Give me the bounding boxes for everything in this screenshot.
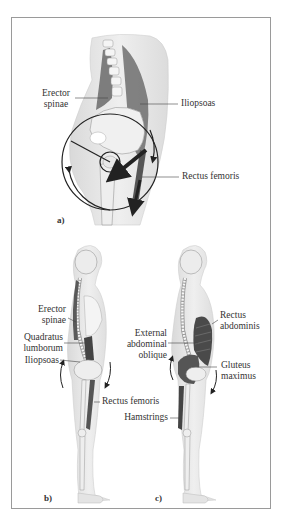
label-line: Gluteus: [221, 360, 256, 371]
label-b-quadratus-lumborum: Quadratus lumborum: [12, 332, 63, 354]
label-line: spinae: [42, 99, 70, 110]
label-b-rectus-femoris: Rectus femoris: [102, 396, 159, 407]
panel-label-a: a): [57, 215, 65, 225]
label-c-external-abdominal-oblique: External abdominal oblique: [115, 328, 167, 361]
label-line: abdominis: [220, 321, 260, 332]
label-line: abdominal: [115, 339, 167, 350]
label-line: maximus: [221, 371, 256, 382]
label-c-hamstrings: Hamstrings: [110, 412, 168, 423]
label-line: Quadratus: [12, 332, 63, 343]
label-line: Erector: [42, 88, 70, 99]
panel-label-b: b): [44, 493, 52, 503]
anatomy-illustration: [0, 0, 281, 524]
label-a-erector-spinae: Erector spinae: [42, 88, 70, 110]
label-line: oblique: [115, 350, 167, 361]
label-c-gluteus-maximus: Gluteus maximus: [221, 360, 256, 382]
label-b-iliopsoas: Iliopsoas: [12, 355, 59, 366]
label-line: Erector: [20, 304, 66, 315]
panel-label-c: c): [155, 493, 162, 503]
panel-c-drawing: [168, 245, 218, 503]
label-line: Rectus: [220, 310, 260, 321]
label-a-iliopsoas: Iliopsoas: [181, 98, 215, 109]
label-line: External: [115, 328, 167, 339]
label-line: lumborum: [12, 343, 63, 354]
panel-b-drawing: [60, 245, 111, 503]
label-line: spinae: [20, 315, 66, 326]
label-b-erector-spinae: Erector spinae: [20, 304, 66, 326]
label-c-rectus-abdominis: Rectus abdominis: [220, 310, 260, 332]
label-a-rectus-femoris: Rectus femoris: [182, 171, 239, 182]
panel-a-drawing: [62, 34, 179, 225]
